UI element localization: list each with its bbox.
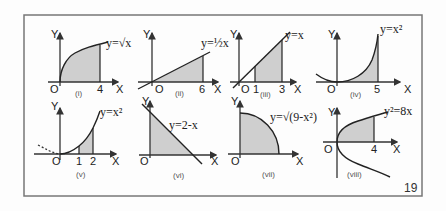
origin-label: O	[52, 155, 61, 167]
equation-label: y=2-x	[169, 118, 198, 132]
graph-iii: Y X O 1 3 y=x (iii)	[230, 28, 304, 99]
graph-caption: (iv)	[350, 90, 361, 99]
graph-caption: (vii)	[262, 170, 275, 179]
equation-label: y²=8x	[384, 104, 412, 118]
tick-label: 6	[199, 83, 205, 95]
y-label: Y	[143, 28, 151, 40]
graph-caption: (viii)	[347, 170, 362, 179]
origin-label: O	[324, 143, 333, 155]
graph-caption: (v)	[76, 170, 86, 179]
tick-label: 4	[97, 83, 103, 95]
y-label: Y	[328, 106, 336, 118]
tick-label: 1	[76, 155, 82, 167]
tick-label: 2	[90, 155, 96, 167]
page-number: 19	[404, 181, 418, 195]
y-label: Y	[142, 95, 150, 107]
equation-label: y=x	[285, 28, 304, 42]
graph-i: Y X O 4 y=√x (i)	[48, 28, 131, 98]
graph-caption: (ii)	[175, 89, 184, 98]
x-label: X	[404, 83, 412, 95]
x-label: X	[112, 155, 120, 167]
origin-label: O	[231, 155, 240, 167]
equation-label: y=x²	[100, 105, 123, 119]
graph-viii: Y X O 4 y²=8x (viii)	[323, 104, 412, 179]
tick-label: 1	[253, 83, 259, 95]
y-label: Y	[51, 100, 59, 112]
graph-caption: (iii)	[260, 90, 271, 99]
x-label: X	[211, 155, 219, 167]
graph-caption: (vi)	[173, 171, 184, 180]
area-under-curve-figure: Y X O 4 y=√x (i) Y X O 6 y=½x (ii) Y X O…	[0, 0, 446, 211]
graph-iv: Y X O 5 y=x² (iv)	[316, 22, 412, 99]
origin-label: O	[327, 83, 336, 95]
origin-label: O	[155, 83, 164, 95]
equation-label: y=½x	[201, 36, 229, 50]
graph-caption: (i)	[75, 89, 82, 98]
x-label: X	[393, 143, 401, 155]
equation-label: y=√(9-x²)	[270, 110, 317, 124]
equation-label: y=x²	[380, 22, 403, 36]
graph-ii: Y X O 6 y=½x (ii)	[138, 28, 229, 98]
y-label: Y	[51, 28, 59, 40]
y-label: Y	[231, 95, 239, 107]
y-label: Y	[230, 28, 238, 40]
origin-label: O	[241, 83, 250, 95]
origin-label: O	[50, 83, 59, 95]
tick-label: 5	[374, 83, 380, 95]
tick-label: 4	[371, 143, 377, 155]
x-label: X	[294, 83, 302, 95]
graph-vii: Y X O y=√(9-x²) (vii)	[228, 95, 317, 179]
x-label: X	[214, 83, 222, 95]
x-label: X	[116, 83, 124, 95]
graph-v: Y X O 1 2 y=x² (v)	[34, 100, 123, 179]
x-label: X	[296, 155, 304, 167]
tick-label: 3	[279, 83, 285, 95]
graph-vi: Y X O y=2-x (vi)	[139, 95, 219, 180]
equation-label: y=√x	[106, 36, 131, 50]
origin-label: O	[140, 155, 149, 167]
y-label: Y	[328, 28, 336, 40]
